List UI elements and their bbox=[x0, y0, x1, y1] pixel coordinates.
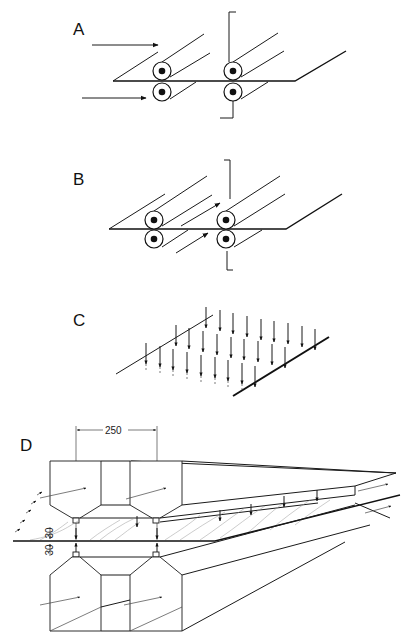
panel-label-d: D bbox=[20, 436, 32, 455]
panel-label-a: A bbox=[73, 20, 85, 39]
web-edge-back bbox=[116, 315, 213, 374]
roller-edge bbox=[162, 230, 188, 247]
web-edge bbox=[113, 52, 158, 81]
roller-edge bbox=[170, 53, 210, 77]
technical-figure: A B bbox=[0, 0, 416, 642]
impingement-arrows bbox=[146, 307, 315, 390]
section-bracket-top bbox=[229, 12, 236, 62]
panel-a: A bbox=[73, 12, 346, 118]
roller-edge bbox=[233, 33, 278, 62]
roller-edge bbox=[162, 34, 204, 62]
panel-b: B bbox=[73, 160, 342, 270]
airflow-arrow-upper bbox=[181, 203, 220, 226]
dimension-label-250: 250 bbox=[105, 425, 122, 436]
panel-c: C bbox=[73, 307, 329, 396]
exit-flow-arrow-upper bbox=[358, 484, 388, 491]
edge-flow-marks bbox=[15, 492, 42, 532]
roller-edge bbox=[234, 230, 262, 247]
roller-edge bbox=[154, 176, 207, 211]
panel-label-c: C bbox=[73, 311, 85, 330]
roller-edge bbox=[170, 82, 196, 99]
dimension-label-gap-above: 30 bbox=[44, 527, 55, 539]
roller-edge bbox=[226, 176, 280, 211]
roller-edge bbox=[241, 82, 268, 99]
roller-edge bbox=[234, 194, 285, 226]
down-arrows bbox=[76, 490, 317, 554]
web-edge bbox=[355, 503, 390, 518]
roller-edge bbox=[162, 195, 212, 226]
section-bracket-bottom bbox=[227, 251, 233, 270]
dimension-label-gap-below: 30 bbox=[44, 544, 55, 556]
airflow-arrow-lower bbox=[176, 233, 208, 253]
panel-label-b: B bbox=[73, 170, 84, 189]
section-bracket-top bbox=[224, 160, 230, 199]
upper-nozzle-boxes bbox=[40, 461, 396, 523]
section-bracket-bottom bbox=[220, 101, 233, 118]
panel-d: D 250 bbox=[13, 425, 400, 631]
roller-edge bbox=[241, 51, 284, 77]
